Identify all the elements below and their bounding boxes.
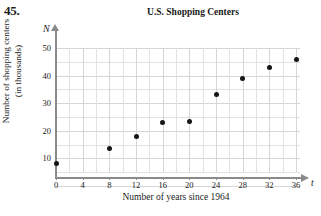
- gridline-horizontal: [56, 76, 300, 77]
- x-tick-mark: [163, 177, 164, 180]
- gridline-horizontal: [56, 89, 300, 90]
- x-tick-label: 20: [179, 180, 199, 190]
- y-tick-label: 30: [33, 98, 51, 108]
- x-tick-mark: [189, 177, 190, 180]
- y-tick-label: 40: [33, 71, 51, 81]
- y-axis-title: Number of shopping centers (in thousands…: [1, 1, 37, 141]
- data-point: [54, 161, 59, 166]
- gridline-vertical: [216, 48, 217, 172]
- x-tick-label: 32: [259, 180, 279, 190]
- gridline-vertical: [256, 48, 257, 172]
- x-tick-label: 0: [46, 180, 66, 190]
- x-tick-mark: [243, 177, 244, 180]
- gridline-vertical: [69, 48, 70, 172]
- gridline-vertical: [283, 48, 284, 172]
- y-axis-variable-symbol: N: [43, 23, 50, 34]
- x-tick-mark: [296, 177, 297, 180]
- gridline-horizontal: [56, 103, 300, 104]
- gridline-vertical: [203, 48, 204, 172]
- x-tick-mark: [269, 177, 270, 180]
- gridline-vertical: [109, 48, 110, 172]
- x-tick-label: 24: [206, 180, 226, 190]
- x-tick-label: 28: [233, 180, 253, 190]
- y-axis-title-line-1: Number of shopping centers: [1, 1, 13, 141]
- y-tick-label: 20: [33, 126, 51, 136]
- x-tick-label: 36: [286, 180, 306, 190]
- plot-area: [56, 48, 300, 172]
- x-tick-label: 8: [99, 180, 119, 190]
- y-axis-title-line-2: (in thousands): [13, 1, 25, 141]
- x-tick-mark: [109, 177, 110, 180]
- data-point: [134, 134, 139, 139]
- x-axis-variable-symbol: t: [311, 178, 314, 188]
- gridline-vertical: [229, 48, 230, 172]
- problem-number: 45.: [4, 3, 20, 19]
- gridline-vertical: [123, 48, 124, 172]
- gridline-vertical: [136, 48, 137, 172]
- x-tick-label: 12: [126, 180, 146, 190]
- gridline-vertical: [163, 48, 164, 172]
- gridline-horizontal: [56, 48, 300, 49]
- data-point: [267, 65, 272, 70]
- data-point: [214, 92, 219, 97]
- y-axis-line: [55, 28, 57, 178]
- x-tick-mark: [56, 177, 57, 180]
- data-point: [294, 57, 299, 62]
- y-axis-arrow-icon: [51, 24, 59, 31]
- gridline-vertical: [96, 48, 97, 172]
- x-tick-label: 4: [73, 180, 93, 190]
- gridline-vertical: [83, 48, 84, 172]
- gridline-horizontal: [56, 158, 300, 159]
- x-axis-title: Number of years since 1964: [96, 192, 256, 202]
- figure-page: 45. U.S. Shopping Centers Number of shop…: [0, 0, 321, 216]
- gridline-vertical: [243, 48, 244, 172]
- gridline-horizontal: [56, 62, 300, 63]
- gridline-horizontal: [56, 117, 300, 118]
- x-axis-line: [55, 177, 303, 179]
- gridline-vertical: [176, 48, 177, 172]
- x-tick-mark: [83, 177, 84, 180]
- x-tick-label: 16: [153, 180, 173, 190]
- gridline-vertical: [189, 48, 190, 172]
- gridline-horizontal: [56, 131, 300, 132]
- data-point: [187, 119, 192, 124]
- gridline-horizontal: [56, 145, 300, 146]
- chart-title: U.S. Shopping Centers: [128, 7, 258, 17]
- gridline-vertical: [149, 48, 150, 172]
- gridline-horizontal: [56, 172, 300, 173]
- gridline-vertical: [296, 48, 297, 172]
- x-tick-mark: [136, 177, 137, 180]
- y-tick-label: 10: [33, 153, 51, 163]
- y-tick-label: 50: [33, 43, 51, 53]
- x-tick-mark: [216, 177, 217, 180]
